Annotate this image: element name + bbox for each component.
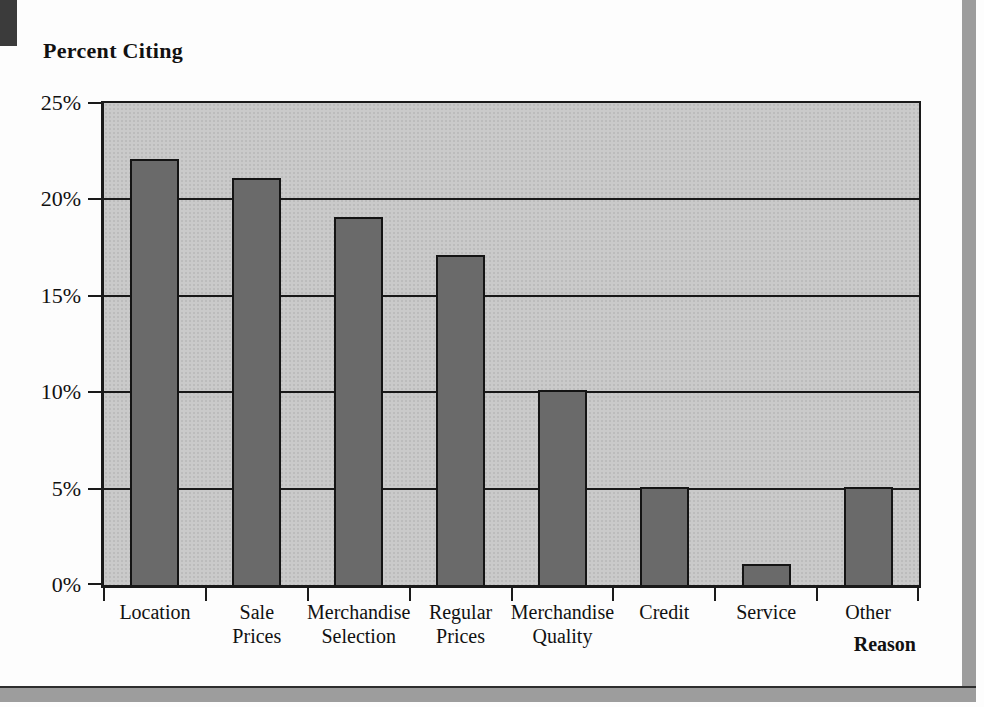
bar-credit bbox=[640, 487, 689, 585]
y-tick bbox=[88, 391, 101, 393]
yaxis-title: Percent Citing bbox=[43, 38, 183, 64]
page-frame-right bbox=[962, 0, 976, 702]
y-tick-label: 20% bbox=[23, 186, 81, 212]
x-category-label: Other bbox=[803, 600, 933, 624]
gridline-20 bbox=[104, 198, 919, 200]
y-tick-label: 5% bbox=[23, 476, 81, 502]
y-tick bbox=[88, 102, 101, 104]
y-tick bbox=[88, 198, 101, 200]
gridline-5 bbox=[104, 488, 919, 490]
y-tick bbox=[88, 488, 101, 490]
y-tick bbox=[88, 295, 101, 297]
page-frame-bottom bbox=[0, 686, 976, 702]
gridline-10 bbox=[104, 391, 919, 393]
bar-merchandise-quality bbox=[538, 390, 587, 585]
y-tick-label: 15% bbox=[23, 283, 81, 309]
y-tick-label: 10% bbox=[23, 379, 81, 405]
bar-regular-prices bbox=[436, 255, 485, 585]
gridline-15 bbox=[104, 295, 919, 297]
y-tick-label: 0% bbox=[23, 572, 81, 598]
xaxis-title: Reason bbox=[854, 633, 916, 656]
bar-location bbox=[130, 159, 179, 585]
page-corner-tab bbox=[0, 0, 17, 46]
bar-service bbox=[742, 564, 791, 585]
bar-merchandise-selection bbox=[334, 217, 383, 585]
y-tick-label: 25% bbox=[23, 90, 81, 116]
plot-area: 0%5%10%15%20%25%LocationSale PricesMerch… bbox=[101, 101, 921, 588]
bar-sale-prices bbox=[232, 178, 281, 585]
bar-other bbox=[844, 487, 893, 585]
y-tick bbox=[88, 583, 101, 585]
page: Percent Citing 0%5%10%15%20%25%LocationS… bbox=[0, 0, 984, 707]
